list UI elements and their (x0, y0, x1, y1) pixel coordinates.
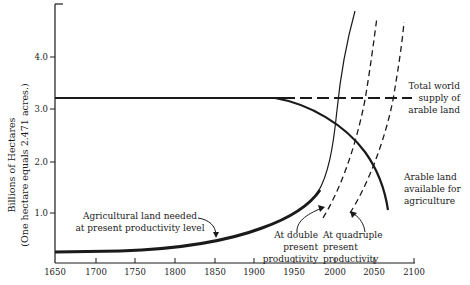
x-tick-label: 1800 (164, 267, 186, 277)
arrowhead-icon (350, 211, 357, 218)
x-tick-label: 2000 (324, 267, 346, 277)
annotation-total-supply: Total world supply of arable land (408, 81, 460, 115)
y-tick-label: 3.0 (34, 104, 48, 114)
annotation-quadruple: At quadruple present productivity (322, 230, 383, 264)
x-tick-label: 1900 (243, 267, 265, 277)
x-tick-label: 2050 (363, 267, 385, 277)
svg-text:At double: At double (273, 230, 318, 240)
arrowhead-icon (213, 232, 219, 238)
svg-text:Agricultural land needed: Agricultural land needed (82, 211, 197, 221)
x-tick-label: 1750 (124, 267, 146, 277)
arrowhead-icon (318, 205, 325, 212)
svg-text:present: present (283, 242, 318, 252)
svg-text:agriculture: agriculture (404, 196, 455, 206)
y-axis-sublabel: (One hectare equals 2.471 acres.) (19, 83, 30, 246)
annotation-double: At double present productivity (263, 230, 319, 264)
series-land-needed-projection (318, 11, 355, 192)
x-tick-labels: 1650 1700 1750 1800 1850 1900 1950 2000 … (44, 267, 425, 277)
svg-text:productivity: productivity (323, 254, 379, 264)
svg-text:at present productivity level: at present productivity level (75, 223, 204, 233)
svg-text:supply of: supply of (418, 93, 460, 103)
svg-text:available for: available for (404, 184, 462, 194)
x-tick-label: 1850 (204, 267, 226, 277)
x-tick-label: 1650 (44, 267, 66, 277)
x-tick-label: 2100 (403, 267, 425, 277)
x-tick-label: 1700 (85, 267, 107, 277)
series-land-needed-historical (55, 190, 320, 252)
land-projection-chart: Billions of Hectares (One hectare equals… (0, 0, 470, 285)
svg-text:Total world: Total world (408, 81, 460, 91)
y-tick-labels: 1.0 2.0 3.0 4.0 (34, 52, 48, 218)
svg-text:Arable land: Arable land (403, 172, 457, 182)
svg-text:productivity: productivity (263, 254, 319, 264)
y-axis-title: Billions of Hectares (One hectare equals… (6, 83, 30, 246)
annotation-arable-available: Arable land available for agriculture (403, 172, 462, 206)
svg-text:present: present (323, 242, 358, 252)
series-quadruple-productivity (350, 22, 404, 213)
series-double-productivity (323, 17, 377, 218)
y-tick-label: 4.0 (34, 52, 48, 62)
x-tick-label: 1950 (283, 267, 305, 277)
y-axis-label: Billions of Hectares (6, 117, 17, 212)
annotation-land-needed: Agricultural land needed at present prod… (75, 211, 204, 233)
svg-text:arable land: arable land (408, 105, 460, 115)
y-tick-label: 1.0 (34, 208, 48, 218)
svg-text:At quadruple: At quadruple (322, 230, 383, 240)
y-tick-label: 2.0 (34, 157, 48, 167)
